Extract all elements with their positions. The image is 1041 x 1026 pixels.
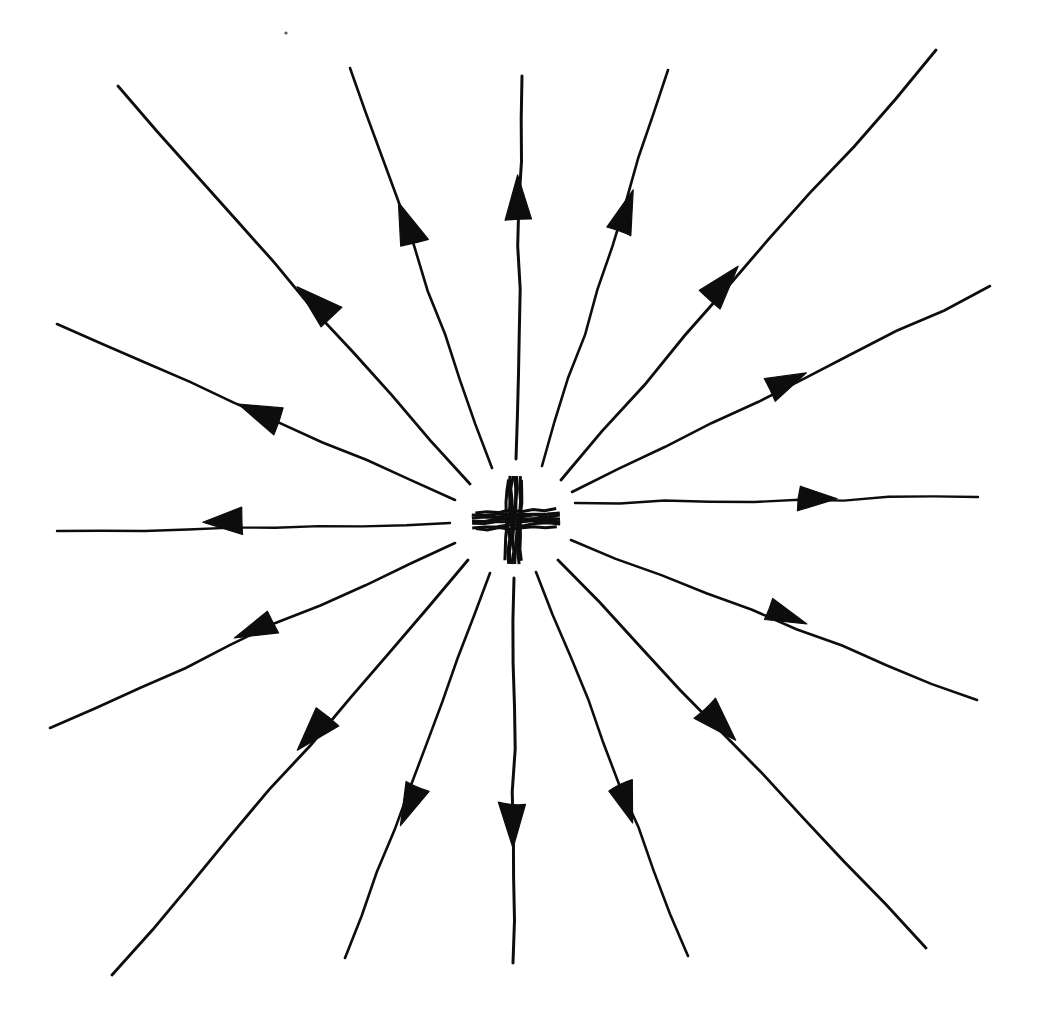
ray-sw-arrowhead xyxy=(297,708,339,750)
ray-s-arrowhead xyxy=(498,802,525,848)
ray-e-arrowhead xyxy=(797,486,837,511)
ray-ssw-line xyxy=(345,573,490,958)
ray-w-line xyxy=(57,523,450,531)
ink-speck xyxy=(284,31,287,34)
ray-w-arrowhead xyxy=(203,507,243,534)
ray-sse-line xyxy=(536,572,688,956)
ray-nw-arrowhead xyxy=(297,287,342,327)
ray-se-line xyxy=(558,560,926,948)
ray-s-line xyxy=(512,578,515,963)
ray-ssw-arrowhead xyxy=(400,781,429,825)
ray-n-line xyxy=(516,76,522,459)
ray-e-line xyxy=(575,496,978,503)
ray-ese-arrowhead xyxy=(765,598,807,624)
ink-speck-dot xyxy=(284,31,287,34)
ray-nw-line xyxy=(118,86,470,484)
ray-n-arrowhead xyxy=(505,175,531,220)
ray-sse-arrowhead xyxy=(609,780,633,823)
ray-wnw-arrowhead xyxy=(238,404,283,435)
ray-se-arrowhead xyxy=(694,698,736,740)
ray-nne-arrowhead xyxy=(607,190,633,236)
ray-wsw-arrowhead xyxy=(234,611,278,638)
ray-nne-line xyxy=(542,70,668,466)
ray-sw-line xyxy=(112,560,468,975)
positive-charge-symbol xyxy=(472,476,560,564)
ray-ne-line xyxy=(561,50,936,480)
ray-nnw-arrowhead xyxy=(398,202,428,246)
field-lines-svg xyxy=(0,0,1041,1026)
ray-ne-arrowhead xyxy=(699,266,738,309)
field-diagram-canvas xyxy=(0,0,1041,1026)
ray-nnw-line xyxy=(350,68,492,468)
